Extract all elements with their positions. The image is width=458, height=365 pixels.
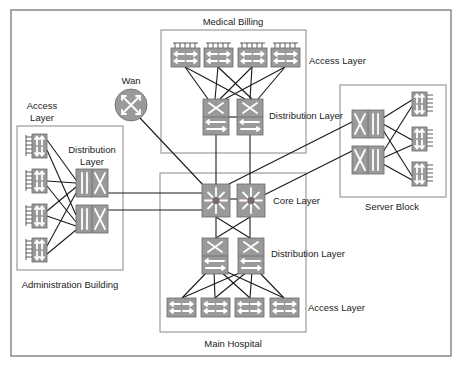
admin-distribution-label-line2: Layer <box>80 156 104 167</box>
server-access-switch-2 <box>412 127 433 151</box>
mb-distribution-switch-2 <box>237 99 263 135</box>
administration-building-label: Administration Building <box>22 279 119 290</box>
admin-access-switch-1 <box>26 134 47 158</box>
wan-label: Wan <box>121 75 140 86</box>
mb-distribution-layer-label: Distribution Layer <box>269 110 343 121</box>
server-access-switch-3 <box>412 162 433 186</box>
core-switch-1 <box>202 184 230 217</box>
server-block-box <box>340 85 446 197</box>
admin-distribution-switch-2 <box>76 205 108 233</box>
mh-access-switch-1 <box>167 298 196 317</box>
server-distribution-switch-2 <box>352 146 384 174</box>
admin-access-switch-4 <box>26 238 47 262</box>
server-access-switch-1 <box>412 92 433 116</box>
server-distribution-switch-1 <box>352 110 384 138</box>
main-hospital-label: Main Hospital <box>204 338 262 349</box>
mb-access-switch-3 <box>238 43 267 67</box>
mh-distribution-switch-1 <box>202 238 228 274</box>
admin-access-label-line2: Layer <box>30 112 54 123</box>
network-diagram: Medical Billing Access Layer Distributio… <box>0 0 458 365</box>
core-switch-2 <box>237 184 265 217</box>
admin-access-switch-2 <box>26 169 47 193</box>
mb-access-switch-2 <box>204 43 233 67</box>
admin-access-label-line1: Access <box>27 100 58 111</box>
wan-router-icon <box>115 89 147 121</box>
mh-distribution-layer-label: Distribution Layer <box>271 248 345 259</box>
mh-access-layer-label: Access Layer <box>308 302 365 313</box>
server-block-label: Server Block <box>365 201 419 212</box>
mb-distribution-switch-1 <box>203 99 229 135</box>
mh-distribution-switch-2 <box>238 238 264 274</box>
mh-access-switch-2 <box>201 298 230 317</box>
mh-access-switch-4 <box>270 298 299 317</box>
admin-access-switch-3 <box>26 204 47 228</box>
admin-distribution-label-line1: Distribution <box>68 144 116 155</box>
mb-access-switch-1 <box>171 43 200 67</box>
mh-access-switch-3 <box>235 298 264 317</box>
admin-distribution-switch-1 <box>76 169 108 197</box>
core-layer-label: Core Layer <box>273 195 320 206</box>
mb-access-switch-4 <box>271 43 300 67</box>
mb-access-layer-label: Access Layer <box>309 55 366 66</box>
medical-billing-label: Medical Billing <box>203 16 264 27</box>
